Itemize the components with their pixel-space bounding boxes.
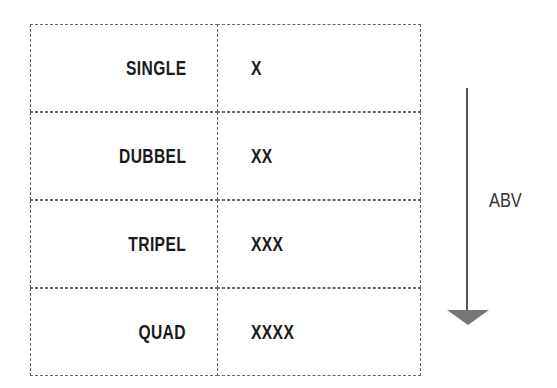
table-row: DUBBEL XX [30,112,421,200]
table-row: QUAD XXXX [30,288,421,376]
style-cell: DUBBEL [30,112,218,200]
marks-label: XX [251,145,273,168]
style-label: SINGLE [126,57,186,80]
abv-label: ABV [489,188,522,212]
marks-cell: XX [217,112,421,200]
beer-style-table: SINGLE X DUBBEL XX TRIPEL XXX QUAD XXXX [30,24,421,376]
marks-cell: XXXX [217,288,421,376]
marks-cell: X [217,24,421,112]
style-cell: SINGLE [30,24,218,112]
arrow-head-icon [447,310,489,325]
style-cell: TRIPEL [30,200,218,288]
style-label: QUAD [139,321,186,344]
marks-label: XXXX [251,321,294,344]
marks-label: X [251,57,262,80]
marks-cell: XXX [217,200,421,288]
table-row: SINGLE X [30,24,421,112]
marks-label: XXX [251,233,283,256]
style-cell: QUAD [30,288,218,376]
style-label: DUBBEL [119,145,186,168]
table-row: TRIPEL XXX [30,200,421,288]
arrow-down-icon [466,88,468,312]
style-label: TRIPEL [128,233,186,256]
